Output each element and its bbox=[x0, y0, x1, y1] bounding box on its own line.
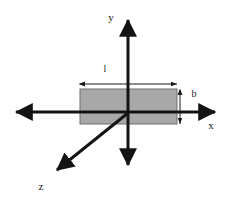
diagram-canvas: y x z l b bbox=[0, 0, 231, 204]
y-axis-label: y bbox=[108, 11, 114, 23]
x-axis-label: x bbox=[208, 119, 214, 131]
z-axis-label: z bbox=[39, 180, 44, 192]
breadth-dimension-label: b bbox=[192, 88, 197, 99]
length-dimension-label: l bbox=[104, 63, 107, 74]
coordinate-plate-diagram: y x z l b bbox=[0, 0, 231, 204]
